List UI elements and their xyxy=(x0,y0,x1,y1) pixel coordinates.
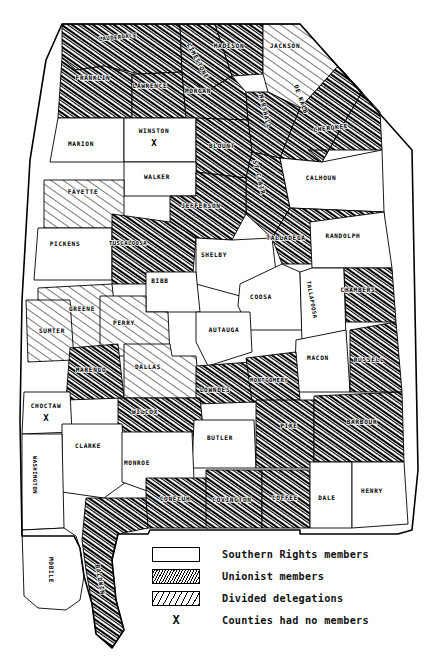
county-label-butler: BUTLER xyxy=(207,434,233,441)
legend-swatch-divided xyxy=(152,591,200,606)
county-label-barbour: BARBOUR xyxy=(347,418,378,425)
county-label-talladega: TALLADEGA xyxy=(266,234,305,241)
county-label-mobile: MOBILE xyxy=(48,557,55,583)
county-baldwin xyxy=(82,498,148,648)
alabama-county-map: LAUDERDALELIMESTONEMADISONJACKSONFRANKLI… xyxy=(0,0,433,664)
county-label-clarke: CLARKE xyxy=(75,442,101,449)
x-mark-winston: X xyxy=(151,138,157,148)
legend-swatch-unionist xyxy=(152,569,200,584)
county-label-morgan: MORGAN xyxy=(185,87,211,94)
legend-swatch-southern-rights xyxy=(152,547,200,562)
county-label-choctaw: CHOCTAW xyxy=(31,402,62,409)
county-henry xyxy=(352,462,408,528)
county-label-coosa: COOSA xyxy=(250,293,272,300)
legend-label-unionist: Unionist members xyxy=(222,571,324,582)
legend-label-divided: Divided delegations xyxy=(222,593,343,604)
county-winston xyxy=(124,118,196,162)
county-washington xyxy=(22,434,64,530)
county-label-russell: RUSSELL xyxy=(354,356,385,363)
county-label-walker: WALKER xyxy=(144,173,170,180)
county-label-shelby: SHELBY xyxy=(201,251,227,258)
county-label-lowndes: LOWNDES xyxy=(200,386,231,393)
county-conecuh xyxy=(146,478,208,528)
county-label-sumter: SUMTER xyxy=(39,327,65,334)
county-label-macon: MACON xyxy=(307,354,329,361)
county-wilcox xyxy=(118,398,204,436)
county-clarke xyxy=(62,424,126,498)
county-label-calhoun: CALHOUN xyxy=(306,174,337,181)
county-lauderdale xyxy=(62,24,182,74)
county-label-pike: PIKE xyxy=(280,422,297,429)
county-label-pickens: PICKENS xyxy=(50,240,81,247)
county-label-lawrence: LAWRENCE xyxy=(133,82,168,89)
county-label-covington: COVINGTON xyxy=(212,496,251,503)
legend-row-no-members: X Counties had no members xyxy=(152,609,420,631)
county-label-jefferson: JEFFERSON xyxy=(181,202,220,209)
county-label-henry: HENRY xyxy=(361,487,383,494)
county-label-blount: BLOUNT xyxy=(209,142,235,149)
county-pike xyxy=(256,400,314,468)
county-dallas xyxy=(124,344,200,398)
county-label-tuscaloosa: TUSCALOOSA xyxy=(109,240,147,246)
county-label-winston: WINSTON xyxy=(139,127,170,134)
county-label-coffee: COFFEE xyxy=(272,494,298,501)
county-label-madison: MADISON xyxy=(214,42,245,49)
county-label-marengo: MARENGO xyxy=(76,366,107,373)
county-macon xyxy=(294,330,350,392)
legend-row-unionist: Unionist members xyxy=(152,565,420,587)
x-mark-choctaw: X xyxy=(43,413,49,423)
county-label-jackson: JACKSON xyxy=(270,42,301,49)
legend-label-southern-rights: Southern Rights members xyxy=(222,549,369,560)
county-label-randolph: RANDOLPH xyxy=(326,232,361,239)
county-label-bibb: BIBB xyxy=(151,277,168,284)
county-label-washington: WASHINGTON xyxy=(32,456,38,494)
county-label-greene: GREENE xyxy=(69,305,95,312)
county-label-monroe: MONROE xyxy=(124,459,150,466)
county-label-autauga: AUTAUGA xyxy=(209,326,240,333)
county-calhoun xyxy=(280,150,384,212)
county-label-chambers: CHAMBERS xyxy=(341,286,376,293)
county-barbour xyxy=(314,392,404,462)
legend-x-icon: X xyxy=(152,613,200,628)
county-label-conecuh: CONECUH xyxy=(160,495,191,502)
county-pickens xyxy=(34,228,112,280)
legend-label-no-members: Counties had no members xyxy=(222,615,369,626)
county-butler xyxy=(192,420,256,468)
county-autauga xyxy=(196,312,252,366)
county-label-franklin: FRANKLIN xyxy=(76,74,111,81)
county-label-marion: MARION xyxy=(68,140,94,147)
county-label-perry: PERRY xyxy=(113,319,135,326)
map-legend: Southern Rights members Unionist members… xyxy=(152,543,420,631)
county-label-dale: DALE xyxy=(318,494,335,501)
county-randolph xyxy=(310,212,392,268)
legend-row-divided: Divided delegations xyxy=(152,587,420,609)
county-label-montgomery: MONTGOMERY xyxy=(250,377,288,383)
county-lawrence xyxy=(132,72,186,118)
county-label-dallas: DALLAS xyxy=(135,363,161,370)
legend-row-southern-rights: Southern Rights members xyxy=(152,543,420,565)
county-chambers xyxy=(344,268,396,322)
county-label-wilcox: WILCOX xyxy=(132,408,158,415)
county-label-fayette: FAYETTE xyxy=(68,188,99,195)
